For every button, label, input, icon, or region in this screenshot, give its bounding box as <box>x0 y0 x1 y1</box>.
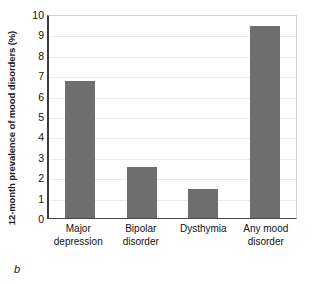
y-axis-tick-labels: 012345678910 <box>22 15 44 219</box>
bar <box>188 189 218 218</box>
x-tick-label-line: Bipolar <box>110 223 173 236</box>
bar-slot <box>173 16 235 218</box>
bar-series <box>49 16 296 218</box>
x-tick-label: Any mooddisorder <box>235 223 298 248</box>
y-tick-label: 2 <box>22 173 44 183</box>
bar-slot <box>111 16 173 218</box>
panel-caption: b <box>14 263 20 275</box>
bar-slot <box>49 16 111 218</box>
y-tick-label: 7 <box>22 71 44 81</box>
x-axis-tick-labels: MajordepressionBipolardisorderDysthymiaA… <box>47 223 297 248</box>
y-tick-label: 9 <box>22 30 44 40</box>
bar-chart-figure: 12-month prevalence of mood disorders (%… <box>0 0 318 284</box>
y-tick-label: 10 <box>22 10 44 20</box>
y-tick-label: 1 <box>22 194 44 204</box>
y-tick-label: 4 <box>22 132 44 142</box>
y-axis-title: 12-month prevalence of mood disorders (%… <box>2 16 20 240</box>
x-tick-label: Dysthymia <box>172 223 235 248</box>
plot-area <box>47 15 297 219</box>
bar <box>127 167 157 218</box>
y-tick-label: 3 <box>22 153 44 163</box>
bar-slot <box>234 16 296 218</box>
y-tick-label: 0 <box>22 214 44 224</box>
x-tick-label-line: disorder <box>235 236 298 249</box>
y-tick-label: 6 <box>22 92 44 102</box>
x-tick-label-line: Major <box>47 223 110 236</box>
x-tick-label-line: depression <box>47 236 110 249</box>
x-tick-label-line: Dysthymia <box>172 223 235 236</box>
x-tick-label-line: disorder <box>110 236 173 249</box>
bar <box>250 26 280 218</box>
x-tick-label-line: Any mood <box>235 223 298 236</box>
x-tick-label: Bipolardisorder <box>110 223 173 248</box>
bar <box>65 81 95 218</box>
y-tick-label: 8 <box>22 51 44 61</box>
x-tick-label: Majordepression <box>47 223 110 248</box>
y-tick-label: 5 <box>22 112 44 122</box>
